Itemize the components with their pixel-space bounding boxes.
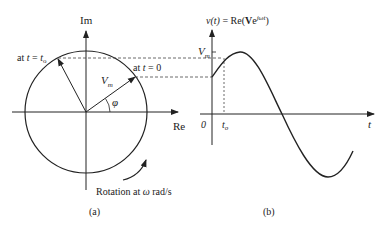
im-label: Im — [80, 14, 93, 26]
vector-to — [58, 59, 86, 112]
magnitude-label: Vm — [101, 74, 113, 89]
panel-b: v(t) = Re(Vejωt) Vm 0 to t (b) — [198, 14, 374, 218]
rotation-label: Rotation at ω rad/s — [96, 186, 172, 197]
panel-a: Im Re at t = 0 at t = to Vm φ Rotation a… — [12, 14, 222, 218]
phasor-diagram: Im Re at t = 0 at t = to Vm φ Rotation a… — [0, 0, 384, 228]
t-axis-label: t — [368, 118, 372, 130]
origin-label: 0 — [201, 119, 206, 130]
re-label: Re — [173, 120, 185, 132]
angle-arc — [106, 99, 111, 113]
rotation-arrow — [123, 160, 146, 180]
caption-a: (a) — [89, 206, 100, 218]
angle-label: φ — [112, 96, 118, 108]
waveform-title: v(t) = Re(Vejωt) — [206, 14, 269, 27]
to-label: to — [222, 119, 229, 132]
label-at-to: at t = to — [17, 52, 47, 65]
label-at-t0: at t = 0 — [133, 62, 161, 73]
caption-b: (b) — [263, 206, 275, 218]
